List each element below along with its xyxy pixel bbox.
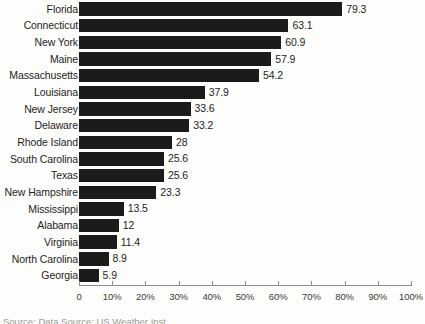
x-axis-tick <box>345 281 346 286</box>
bar-row: New Hampshire23.3 <box>0 184 425 201</box>
bar-value-label: 37.9 <box>209 87 229 98</box>
category-label: North Carolina <box>0 254 78 265</box>
x-axis-tick <box>411 281 412 286</box>
category-label: Virginia <box>0 237 78 248</box>
bar-row: Alabama12 <box>0 217 425 234</box>
bar <box>79 52 271 65</box>
bar <box>79 152 164 165</box>
category-label: Rhode Island <box>0 137 78 148</box>
x-axis-tick <box>245 281 246 286</box>
x-axis-tick-label: 80% <box>335 292 354 302</box>
bar-row: Massachusetts54.2 <box>0 68 425 85</box>
x-axis-tick-label: 70% <box>302 292 321 302</box>
bar-row: Mississippi13.5 <box>0 201 425 218</box>
bar-value-label: 25.6 <box>168 153 188 164</box>
bar-value-label: 12 <box>123 220 134 231</box>
x-axis-tick <box>311 281 312 286</box>
bar-group: 25.6 <box>79 152 188 165</box>
bar-value-label: 63.1 <box>292 20 312 31</box>
category-label: Maine <box>0 54 78 65</box>
bar-group: 23.3 <box>79 186 180 199</box>
category-label: Florida <box>0 4 78 15</box>
x-axis-tick-label: 10% <box>103 292 122 302</box>
bar <box>79 19 288 32</box>
bar-group: 28 <box>79 136 187 149</box>
bar <box>79 119 189 132</box>
category-label: Alabama <box>0 220 78 231</box>
x-axis-tick-label: 0 <box>76 292 81 302</box>
x-axis-tick <box>278 281 279 286</box>
bar <box>79 186 156 199</box>
category-label: New Jersey <box>0 104 78 115</box>
bar <box>79 219 119 232</box>
bar-value-label: 23.3 <box>160 187 180 198</box>
bar-row: Florida79.3 <box>0 1 425 18</box>
bar-row: North Carolina8.9 <box>0 251 425 268</box>
bar-group: 37.9 <box>79 86 229 99</box>
category-label: Mississippi <box>0 204 78 215</box>
bar-group: 57.9 <box>79 52 295 65</box>
x-axis-tick-label: 30% <box>169 292 188 302</box>
bar-value-label: 8.9 <box>113 253 127 264</box>
bar <box>79 202 124 215</box>
bar <box>79 2 342 15</box>
bar-row: New Jersey33.6 <box>0 101 425 118</box>
bar-value-label: 25.6 <box>168 170 188 181</box>
bar-row: Texas25.6 <box>0 168 425 185</box>
bar-value-label: 57.9 <box>275 54 295 65</box>
bar-group: 33.6 <box>79 102 215 115</box>
bar <box>79 252 109 265</box>
bar-row: Connecticut63.1 <box>0 18 425 35</box>
bar <box>79 169 164 182</box>
bar-group: 8.9 <box>79 252 127 265</box>
bar-value-label: 54.2 <box>263 70 283 81</box>
bar-row: Rhode Island28 <box>0 134 425 151</box>
bar <box>79 136 172 149</box>
bar-group: 60.9 <box>79 36 305 49</box>
bar-group: 25.6 <box>79 169 188 182</box>
x-axis-tick-label: 40% <box>202 292 221 302</box>
bar-group: 13.5 <box>79 202 148 215</box>
bar-value-label: 33.2 <box>193 120 213 131</box>
chart-plot-area: Florida79.3Connecticut63.1New York60.9Ma… <box>0 1 425 285</box>
category-label: South Carolina <box>0 154 78 165</box>
bar <box>79 86 205 99</box>
bar <box>79 269 99 282</box>
bar-group: 11.4 <box>79 235 140 248</box>
category-label: Connecticut <box>0 20 78 31</box>
bar-chart: Florida79.3Connecticut63.1New York60.9Ma… <box>0 0 425 324</box>
bar-row: Louisiana37.9 <box>0 84 425 101</box>
category-label: Massachusetts <box>0 70 78 81</box>
bar-row: Maine57.9 <box>0 51 425 68</box>
bar-group: 5.9 <box>79 269 117 282</box>
x-axis-tick <box>378 281 379 286</box>
category-label: Texas <box>0 170 78 181</box>
source-note: Source: Data Source: US Weather Inst. <box>3 317 169 324</box>
bar <box>79 235 117 248</box>
x-axis-tick-label: 20% <box>136 292 155 302</box>
category-label: New Hampshire <box>0 187 78 198</box>
bar-row: New York60.9 <box>0 34 425 51</box>
bar-value-label: 28 <box>176 137 187 148</box>
category-label: Louisiana <box>0 87 78 98</box>
x-axis-tick <box>145 281 146 286</box>
bar-value-label: 13.5 <box>128 203 148 214</box>
bar <box>79 102 191 115</box>
bar-group: 12 <box>79 219 134 232</box>
category-label: Georgia <box>0 270 78 281</box>
bar-row: Delaware33.2 <box>0 118 425 135</box>
x-axis-tick-label: 100% <box>399 292 423 302</box>
bar-row: South Carolina25.6 <box>0 151 425 168</box>
bar-value-label: 11.4 <box>121 237 140 248</box>
x-axis-tick-label: 50% <box>236 292 255 302</box>
bar-group: 79.3 <box>79 2 366 15</box>
x-axis-tick-label: 60% <box>269 292 288 302</box>
x-axis-tick <box>179 281 180 286</box>
bar-value-label: 5.9 <box>103 270 117 281</box>
bar-group: 33.2 <box>79 119 213 132</box>
category-label: Delaware <box>0 120 78 131</box>
category-label: New York <box>0 37 78 48</box>
bar-group: 63.1 <box>79 19 313 32</box>
bar-value-label: 60.9 <box>285 37 305 48</box>
bar-value-label: 79.3 <box>346 4 366 15</box>
